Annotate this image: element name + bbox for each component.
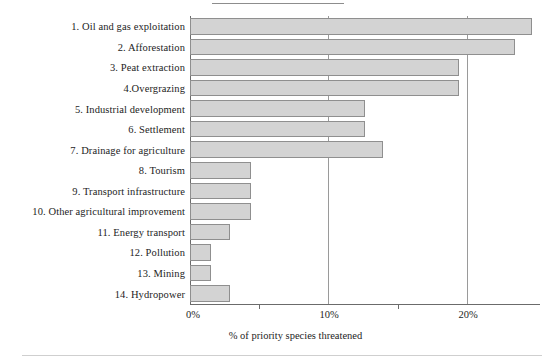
bar-value bbox=[190, 80, 459, 97]
x-minor-tick-15-percent bbox=[398, 305, 399, 309]
x-axis-line bbox=[190, 304, 540, 305]
x-tick-label-10: 10% bbox=[319, 309, 338, 320]
bar-row: 1. Oil and gas exploitation bbox=[0, 16, 551, 37]
category-label: 1. Oil and gas exploitation bbox=[71, 21, 185, 32]
category-label: 12. Pollution bbox=[129, 247, 185, 258]
x-tick-label-20: 20% bbox=[458, 309, 477, 320]
category-label: 8. Tourism bbox=[139, 165, 185, 176]
bar-track bbox=[190, 263, 540, 284]
bar-track bbox=[190, 242, 540, 263]
bar-track bbox=[190, 283, 540, 304]
bar-row: 6. Settlement bbox=[0, 119, 551, 140]
bar-value bbox=[190, 244, 211, 261]
category-label: 7. Drainage for agriculture bbox=[70, 144, 185, 155]
bar-value bbox=[190, 39, 515, 56]
bar-row: 11. Energy transport bbox=[0, 222, 551, 243]
x-axis-title-text: % of priority species threatened bbox=[229, 330, 363, 341]
category-label: 10. Other agricultural improvement bbox=[32, 206, 185, 217]
category-label: 4.Overgrazing bbox=[124, 82, 185, 93]
bar-track bbox=[190, 98, 540, 119]
category-label: 11. Energy transport bbox=[98, 226, 185, 237]
bar-track bbox=[190, 119, 540, 140]
bar-row: 8. Tourism bbox=[0, 160, 551, 181]
bar-value bbox=[190, 183, 251, 200]
bar-value bbox=[190, 18, 532, 35]
bar-track bbox=[190, 181, 540, 202]
category-label: 6. Settlement bbox=[128, 124, 185, 135]
bar-track bbox=[190, 57, 540, 78]
bar-value bbox=[190, 121, 365, 138]
bar-row: 12. Pollution bbox=[0, 242, 551, 263]
category-label: 14. Hydropower bbox=[115, 288, 185, 299]
bar-row: 5. Industrial development bbox=[0, 98, 551, 119]
category-label: 3. Peat extraction bbox=[110, 62, 185, 73]
bar-row: 14. Hydropower bbox=[0, 283, 551, 304]
bar-track bbox=[190, 160, 540, 181]
category-label: 2. Afforestation bbox=[118, 41, 185, 52]
bar-row: 10. Other agricultural improvement bbox=[0, 201, 551, 222]
bar-track bbox=[190, 201, 540, 222]
bar-value bbox=[190, 100, 365, 117]
bar-row: 2. Afforestation bbox=[0, 37, 551, 58]
bar-value bbox=[190, 59, 459, 76]
bar-track bbox=[190, 139, 540, 160]
category-label: 13. Mining bbox=[137, 268, 185, 279]
bar-value bbox=[190, 265, 211, 282]
x-tick-label-0: 0% bbox=[186, 309, 200, 320]
bar-row: 7. Drainage for agriculture bbox=[0, 139, 551, 160]
category-label: 9. Transport infrastructure bbox=[72, 185, 185, 196]
bar-track bbox=[190, 222, 540, 243]
bar-value bbox=[190, 162, 251, 179]
bar-row: 4.Overgrazing bbox=[0, 78, 551, 99]
bar-value bbox=[190, 203, 251, 220]
bottom-rule-decoration bbox=[22, 355, 542, 356]
bar-rows: 1. Oil and gas exploitation 2. Afforesta… bbox=[0, 16, 551, 304]
bar-track bbox=[190, 16, 540, 37]
category-label: 5. Industrial development bbox=[75, 103, 185, 114]
bar-row: 3. Peat extraction bbox=[0, 57, 551, 78]
x-minor-tick-5-percent bbox=[259, 305, 260, 309]
bar-row: 9. Transport infrastructure bbox=[0, 181, 551, 202]
bar-track bbox=[190, 78, 540, 99]
bar-value bbox=[190, 141, 383, 158]
bar-value bbox=[190, 285, 230, 302]
bar-value bbox=[190, 224, 230, 241]
bar-row: 13. Mining bbox=[0, 263, 551, 284]
bar-chart: 1. Oil and gas exploitation 2. Afforesta… bbox=[0, 0, 551, 364]
bar-track bbox=[190, 37, 540, 58]
x-axis-title: % of priority species threatened bbox=[0, 330, 551, 341]
